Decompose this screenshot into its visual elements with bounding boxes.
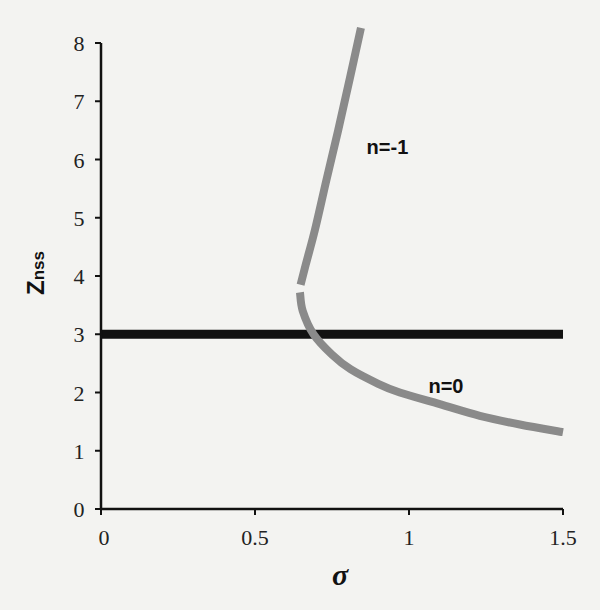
y-tick-label: 5	[74, 206, 85, 231]
y-tick-label: 7	[74, 89, 85, 114]
x-tick-label: 0.5	[241, 525, 269, 550]
y-tick-label: 2	[74, 381, 85, 406]
y-tick-label: 3	[74, 322, 85, 347]
chart: 01234567800.511.5 n=-1n=0σZnss	[0, 0, 600, 610]
curve-n-0	[300, 292, 563, 432]
series-label-n-minus-1: n=-1	[367, 136, 409, 158]
y-axis-title: Znss	[22, 251, 49, 295]
x-tick-label: 0	[99, 525, 110, 550]
x-tick-label: 1.5	[549, 525, 577, 550]
y-tick-label: 4	[74, 264, 85, 289]
x-axis-title: σ	[332, 558, 349, 591]
y-tick-label: 0	[74, 497, 85, 522]
y-tick-label: 1	[74, 439, 85, 464]
y-tick-label: 8	[74, 31, 85, 56]
plot-area	[101, 28, 563, 432]
x-tick-label: 1	[404, 525, 415, 550]
curve-n-minus-1	[301, 28, 361, 285]
labels: n=-1n=0σZnss	[22, 136, 463, 591]
series-label-n-0: n=0	[428, 375, 463, 397]
y-tick-label: 6	[74, 148, 85, 173]
axes: 01234567800.511.5	[74, 31, 577, 550]
